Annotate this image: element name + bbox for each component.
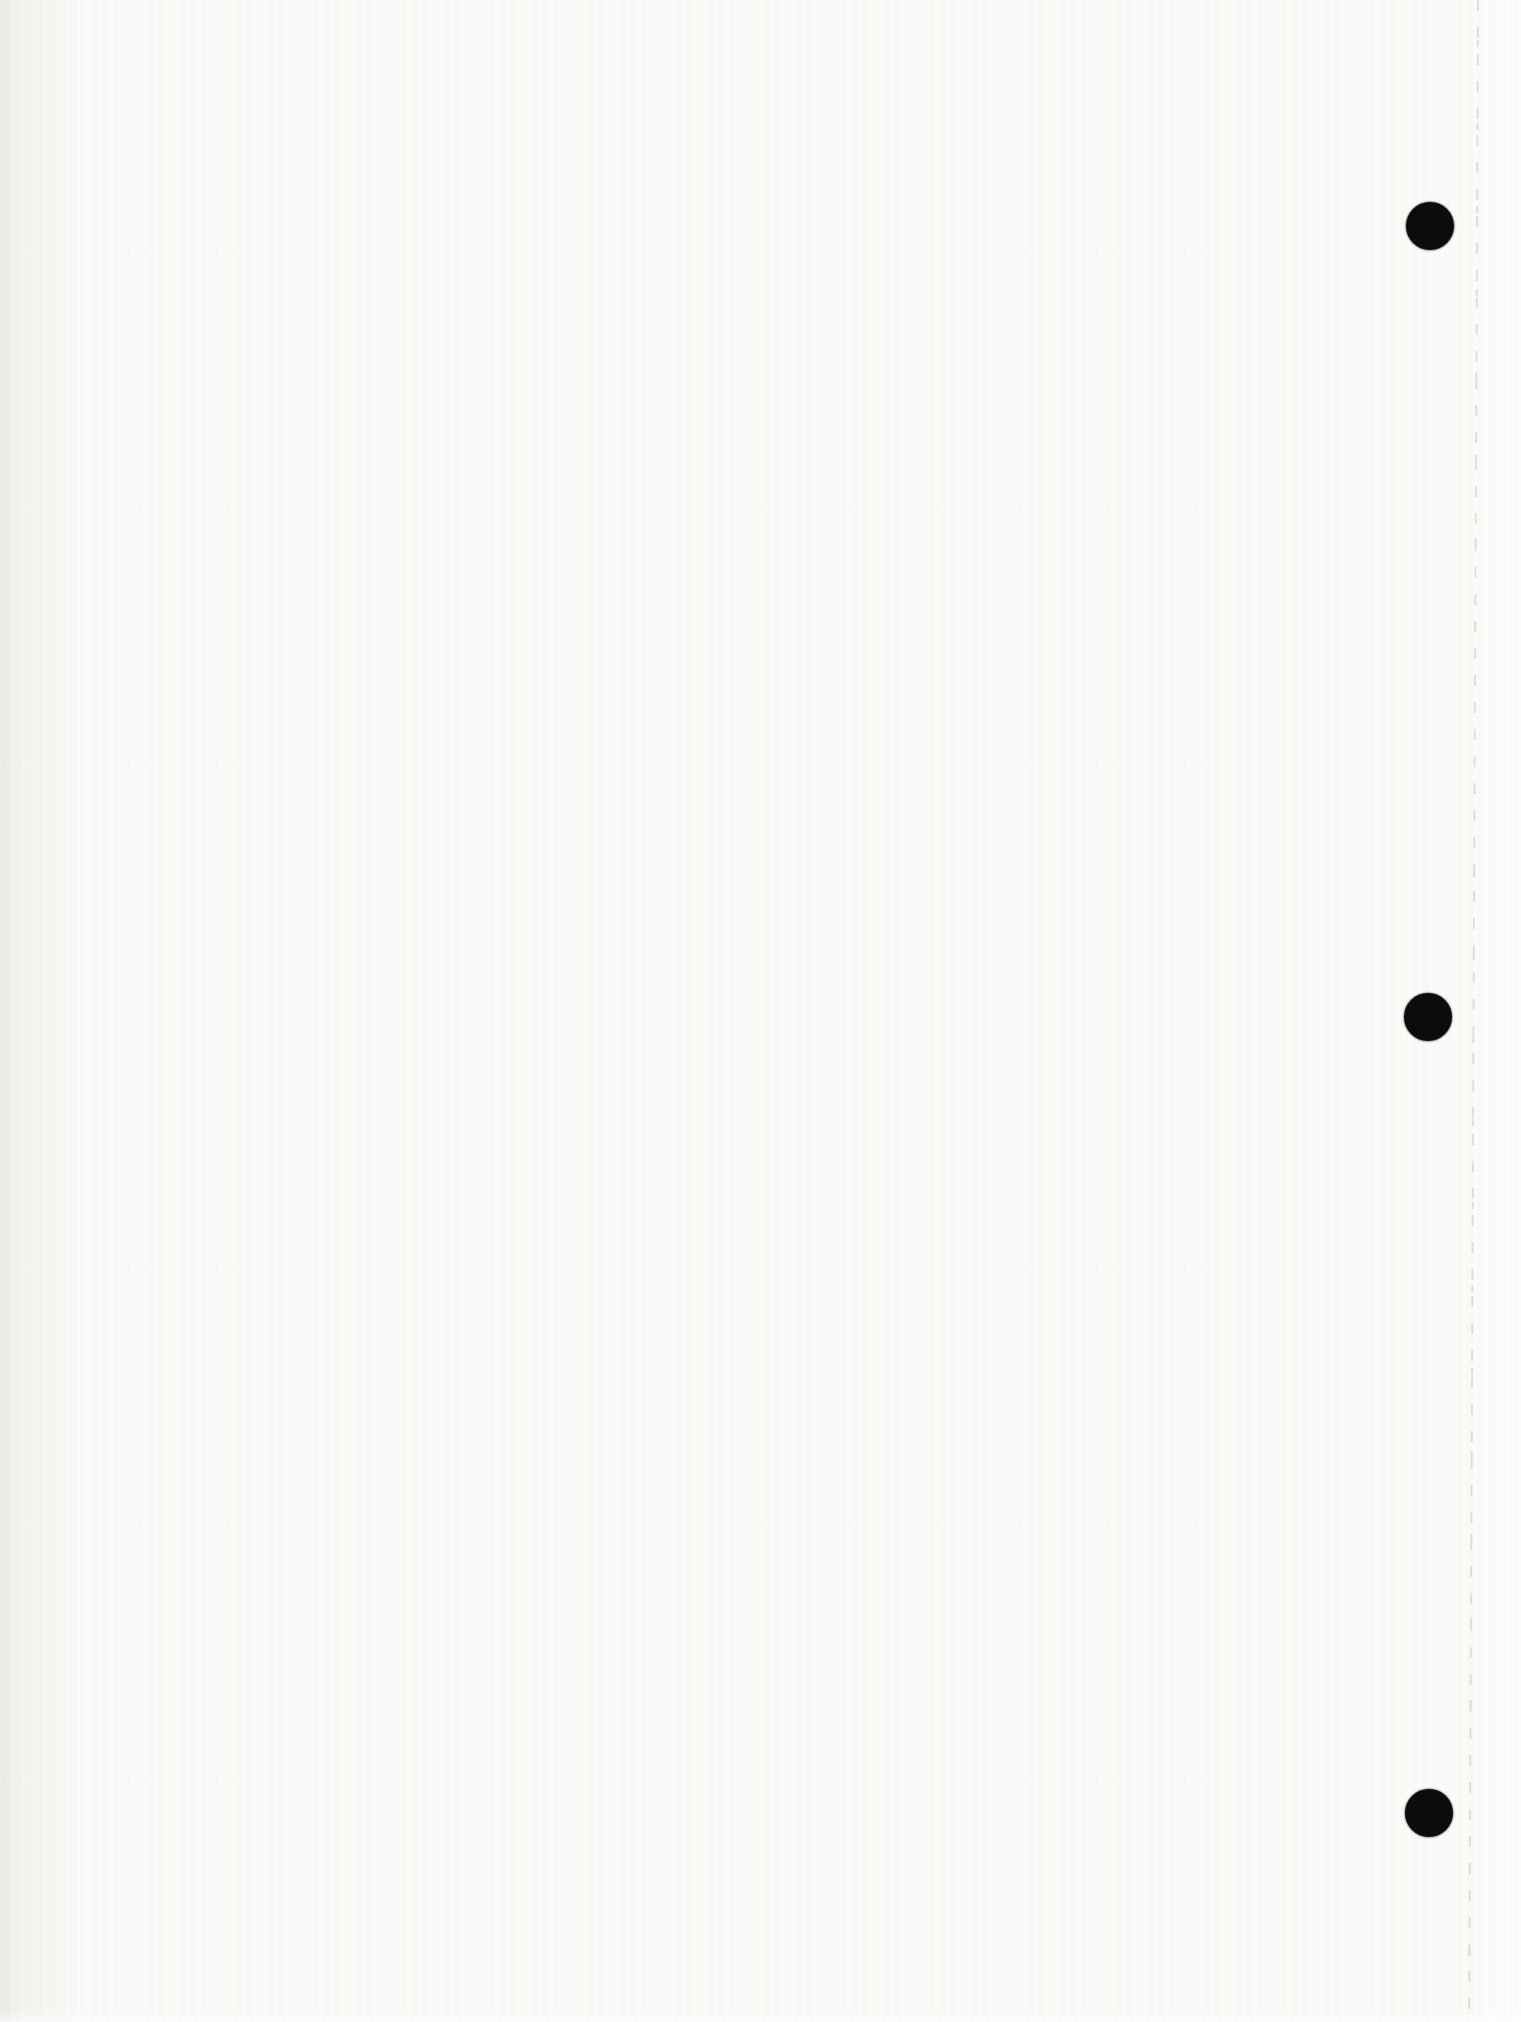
hole-punch-dot: [1406, 202, 1454, 250]
hole-punch-dot: [1405, 1789, 1453, 1837]
bottom-scan-edge: [0, 2012, 1521, 2022]
right-edge-strip: [1478, 0, 1521, 2022]
perforation-dashed-line: [1468, 0, 1479, 2022]
scanned-page: [0, 0, 1521, 2022]
hole-punch-dot: [1404, 993, 1452, 1041]
